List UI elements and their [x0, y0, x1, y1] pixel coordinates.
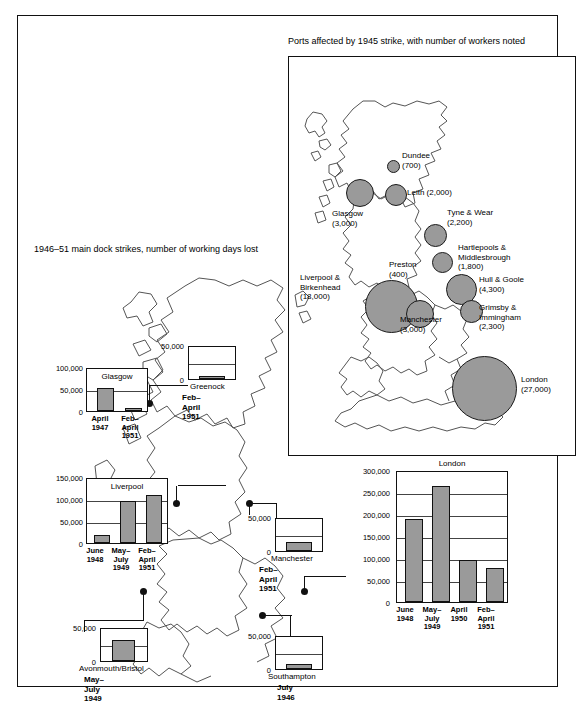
glasgow-xlabel-1: Feb– April 1951	[114, 415, 146, 441]
leader-avonmouth-h	[84, 620, 144, 621]
london-ytick-0: 0	[344, 599, 390, 608]
port-label-hull-goole: Hull & Goole (4,300)	[479, 275, 524, 294]
glasgow-xlabel-0: April 1947	[84, 415, 116, 432]
manchester-ytick-0: 0	[231, 548, 271, 557]
port-symbol-leith	[385, 184, 407, 206]
southampton-bar-0	[286, 664, 312, 669]
london-ytick-250000: 250,000	[344, 489, 390, 498]
uk-coastline-outline-strikes	[93, 266, 393, 686]
greenock-ytick-0: 0	[144, 376, 184, 385]
southampton-gridline-25000	[276, 654, 322, 655]
london-ytick-150000: 150,000	[344, 533, 390, 542]
southampton-plot-area	[275, 636, 323, 670]
liverpool-chart-title: Liverpool	[87, 482, 167, 491]
leader-southampton-h	[262, 615, 292, 616]
port-label-dundee: Dundee (700)	[402, 151, 430, 170]
port-symbol-london	[452, 356, 517, 421]
glasgow-plot-area: Glasgow	[86, 368, 148, 412]
manchester-caption: Manchester	[271, 554, 313, 564]
london-ytick-50000: 50,000	[344, 577, 390, 586]
avonmouth-bar-0	[112, 640, 135, 661]
london-bar-2	[459, 560, 477, 602]
avonmouth-ytick-50000: 50,000	[56, 624, 96, 633]
strikes-section-title: 1946–51 main dock strikes, number of wor…	[34, 244, 258, 254]
port-label-london: London (27,000)	[521, 375, 551, 394]
leader-manchester-v2	[276, 503, 277, 518]
liverpool-plot-area: Liverpool	[86, 478, 168, 544]
greenock-caption-period: Feb–April 1951	[182, 393, 201, 422]
port-label-manchester: Manchester (3,000)	[400, 315, 442, 334]
liverpool-ytick-150000: 150,000	[39, 474, 83, 483]
liverpool-bar-0	[94, 535, 110, 543]
figure-frame: Dundee (700) Leith (2,000) Glasgow (3,00…	[17, 15, 558, 687]
avonmouth-caption-period: May–July 1949	[84, 675, 104, 704]
london-ytick-100000: 100,000	[344, 555, 390, 564]
glasgow-gridline-50000	[87, 391, 147, 392]
leader-avonmouth-v	[143, 591, 144, 621]
london-ytick-300000: 300,000	[344, 467, 390, 476]
avonmouth-plot-area	[100, 628, 148, 662]
leader-london-h	[304, 576, 346, 577]
london-bar-0	[405, 519, 423, 602]
liverpool-xlabel-2: Feb– April 1951	[131, 547, 163, 573]
leader-greenock-v	[149, 386, 150, 404]
manchester-caption-period: Feb–April 1951	[259, 565, 278, 594]
glasgow-ytick-100000: 100,000	[39, 364, 83, 373]
leader-greenock-h	[149, 385, 188, 386]
greenock-caption: Greenock	[190, 382, 225, 392]
london-bar-1	[432, 486, 450, 602]
london-bar-3	[486, 568, 504, 602]
liverpool-bar-2	[146, 495, 162, 543]
port-label-hartlepools: Hartlepools & Middlesbrough (1,800)	[458, 243, 510, 272]
glasgow-chart-title: Glasgow	[87, 372, 147, 381]
southampton-caption: Southampton	[268, 672, 316, 682]
ports-map-title: Ports affected by 1945 strike, with numb…	[288, 36, 525, 46]
port-label-preston: Preston (400)	[389, 260, 417, 279]
london-gridline-200000	[397, 516, 507, 517]
london-ytick-200000: 200,000	[344, 511, 390, 520]
leader-liverpool-v	[176, 486, 177, 504]
manchester-plot-area	[275, 518, 323, 552]
glasgow-ytick-50000: 50,000	[39, 386, 83, 395]
liverpool-ytick-50000: 50,000	[39, 518, 83, 527]
greenock-bar-0	[199, 376, 225, 379]
greenock-gridline-25000	[189, 364, 235, 365]
avonmouth-caption: Avonmouth/Bristol	[79, 664, 144, 674]
greenock-plot-area	[188, 346, 236, 380]
london-xlabel-3: Feb– April 1951	[470, 606, 502, 632]
london-plot-area	[396, 471, 508, 603]
southampton-ytick-50000: 50,000	[231, 632, 271, 641]
liverpool-ytick-100000: 100,000	[39, 496, 83, 505]
glasgow-bar-0	[97, 388, 114, 411]
port-label-tyne-wear: Tyne & Wear (2,200)	[447, 208, 493, 227]
manchester-ytick-50000: 50,000	[231, 514, 271, 523]
london-gridline-250000	[397, 494, 507, 495]
manchester-bar-0	[286, 542, 312, 551]
leader-southampton-v	[290, 616, 291, 636]
port-label-leith: Leith (2,000)	[407, 188, 452, 198]
london-chart-title: London	[396, 459, 508, 468]
port-symbol-glasgow	[346, 179, 374, 207]
greenock-ytick-50000: 50,000	[144, 342, 184, 351]
port-label-glasgow: Glasgow (3,000)	[332, 209, 363, 228]
liverpool-bar-1	[120, 501, 136, 543]
southampton-caption-period: July 1946	[277, 683, 295, 702]
leader-london-v	[304, 576, 305, 591]
port-symbol-tyne-wear	[424, 224, 447, 247]
glasgow-bar-1	[125, 408, 142, 411]
port-label-grimsby: Grimsby & Immingham (2,300)	[479, 303, 521, 332]
port-symbol-hartlepools	[432, 252, 453, 273]
leader-manchester-h	[249, 503, 277, 504]
southampton-ytick-0: 0	[231, 666, 271, 675]
leader-liverpool-h	[178, 485, 226, 486]
manchester-gridline-25000	[276, 536, 322, 537]
glasgow-ytick-0: 0	[39, 408, 83, 417]
port-symbol-dundee	[387, 160, 400, 173]
liverpool-ytick-0: 0	[39, 540, 83, 549]
